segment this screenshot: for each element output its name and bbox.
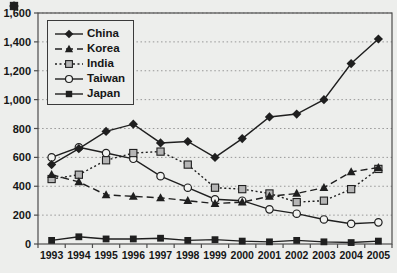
marker-triangle	[47, 170, 56, 178]
x-axis-label: 2001	[258, 249, 282, 261]
marker-square-filled	[157, 235, 164, 242]
legend: ChinaKoreaIndiaTaiwanJapan	[47, 20, 134, 105]
x-axis-label: 1993	[40, 249, 64, 261]
marker-square-filled	[375, 238, 382, 245]
marker-square-filled	[266, 238, 273, 245]
marker-square-filled	[321, 238, 328, 245]
y-axis-label: 1,400	[3, 36, 31, 48]
x-axis-label: 1994	[67, 249, 91, 261]
x-axis-label: 1997	[149, 249, 173, 261]
marker-diamond	[183, 137, 192, 146]
marker-square-open	[320, 197, 327, 204]
marker-square-open	[184, 161, 191, 168]
marker-circle-open	[375, 219, 382, 226]
y-axis-label: 200	[13, 209, 31, 221]
marker-square-open	[102, 157, 109, 164]
legend-label: Taiwan	[87, 71, 125, 86]
marker-square-open	[130, 149, 137, 156]
y-axis-label: 1,200	[3, 65, 31, 77]
legend-sample-taiwan	[55, 73, 83, 85]
marker-square-filled	[239, 238, 246, 245]
legend-marker-circle-open	[66, 75, 73, 82]
marker-diamond	[47, 160, 56, 169]
legend-item-japan: Japan	[55, 86, 125, 101]
x-axis-label: 1998	[176, 249, 200, 261]
marker-circle-open	[347, 220, 354, 227]
legend-item-taiwan: Taiwan	[55, 71, 125, 86]
legend-label: China	[87, 26, 119, 41]
y-axis-label: 600	[13, 151, 31, 163]
x-axis-label: 1996	[122, 249, 146, 261]
marker-circle-open	[320, 216, 327, 223]
marker-square-open	[348, 186, 355, 193]
marker-diamond	[210, 153, 219, 162]
marker-square-open	[239, 186, 246, 193]
legend-sample-china	[55, 28, 83, 40]
legend-marker-square-open	[66, 60, 73, 67]
legend-sample-korea	[55, 43, 83, 55]
marker-triangle	[156, 193, 165, 201]
marker-square-filled	[130, 236, 137, 243]
marker-diamond	[292, 109, 301, 118]
marker-diamond	[156, 138, 165, 147]
marker-square-filled	[293, 237, 300, 244]
marker-square-filled	[48, 237, 55, 244]
y-axis-label: 1,000	[3, 94, 31, 106]
marker-square-open	[157, 148, 164, 155]
marker-circle-open	[48, 154, 55, 161]
legend-label: India	[87, 56, 114, 71]
legend-sample-india	[55, 58, 83, 70]
marker-circle-open	[266, 206, 273, 213]
x-axis-label: 1999	[203, 249, 227, 261]
legend-item-china: China	[55, 26, 125, 41]
marker-diamond	[101, 127, 110, 136]
marker-square-filled	[184, 237, 191, 244]
x-axis-label: 2000	[231, 249, 255, 261]
legend-marker-square-filled	[66, 90, 72, 96]
legend-item-korea: Korea	[55, 41, 125, 56]
marker-square-open	[75, 171, 82, 178]
chart-figure: 02004006008001,0001,2001,4001,6001993199…	[0, 0, 397, 273]
x-axis-label: 2003	[312, 249, 336, 261]
marker-triangle	[320, 183, 329, 191]
marker-circle-open	[102, 149, 109, 156]
y-axis-label: 0	[25, 238, 31, 250]
legend-marker-diamond-filled	[65, 29, 74, 38]
marker-square-filled	[212, 236, 219, 243]
x-axis-label: 2002	[285, 249, 309, 261]
legend-label: Korea	[87, 41, 120, 56]
marker-square-filled	[11, 3, 18, 10]
x-axis-label: 1995	[94, 249, 118, 261]
legend-label: Japan	[87, 86, 120, 101]
legend-item-india: India	[55, 56, 125, 71]
legend-sample-japan	[55, 88, 83, 100]
x-axis-label: 2004	[339, 249, 363, 261]
marker-diamond	[129, 120, 138, 129]
marker-square-filled	[75, 233, 82, 240]
marker-circle-open	[157, 172, 164, 179]
marker-circle-open	[293, 210, 300, 217]
marker-triangle	[102, 190, 111, 198]
y-axis-label: 800	[13, 123, 31, 135]
marker-square-open	[293, 199, 300, 206]
y-axis-label: 400	[13, 180, 31, 192]
marker-square-filled	[348, 239, 355, 246]
x-axis-label: 2005	[367, 249, 391, 261]
marker-circle-open	[184, 184, 191, 191]
marker-square-filled	[103, 236, 110, 243]
marker-square-open	[211, 184, 218, 191]
